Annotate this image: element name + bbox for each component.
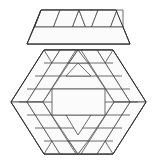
figure-root [0,0,157,162]
lid-lower-strip [27,27,130,44]
trapezoid-lid-group [27,10,130,44]
tiling-figure [0,0,157,162]
body-core-band [52,89,105,115]
